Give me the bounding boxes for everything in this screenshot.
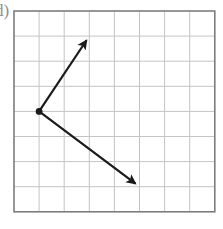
vector-up-right [39,40,86,111]
origin-point-dot [36,108,43,115]
grid-and-vectors-canvas: Two vectors drawn on a square grid from … [0,0,223,229]
vector-arrows [39,40,135,183]
vector-diagram-figure: d) Two vectors drawn on a square grid fr… [0,0,223,229]
vector-origin-dot [36,108,43,115]
grid-lines [14,11,215,212]
vector-down-right [39,111,135,183]
